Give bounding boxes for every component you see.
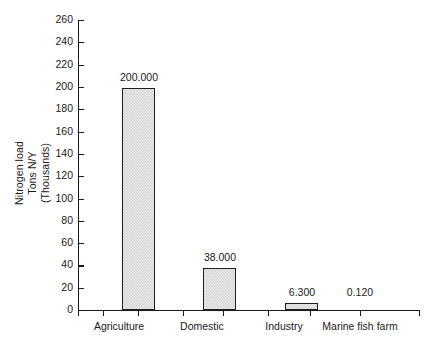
bar-value-agriculture: 200.000 (104, 71, 174, 84)
bar-value-marine-fish-farm: 0.120 (325, 286, 395, 299)
x-tick-boundary-3 (310, 310, 311, 316)
y-tick-label-160: 160 (39, 125, 73, 138)
y-tick-label-60: 60 (39, 236, 73, 249)
y-tick-140: 140 (78, 154, 84, 155)
y-axis-title-line-1: Nitrogen load (13, 141, 26, 205)
y-tick-40: 40 (78, 265, 84, 266)
x-tick-boundary-2 (223, 310, 224, 316)
y-tick-label-80: 80 (39, 214, 73, 227)
y-tick-label-260: 260 (39, 13, 73, 26)
bar-domestic (203, 268, 236, 310)
y-tick-160: 160 (78, 132, 84, 133)
y-tick-100: 100 (78, 199, 84, 200)
x-tick-boundary-4 (419, 310, 420, 316)
y-tick-180: 180 (78, 109, 84, 110)
plot-area: 0 20 40 60 80 100 120 140 160 180 200 (78, 20, 420, 310)
y-tick-200: 200 (78, 87, 84, 88)
y-tick-80: 80 (78, 221, 84, 222)
y-tick-240: 240 (78, 42, 84, 43)
y-tick-label-200: 200 (39, 80, 73, 93)
y-tick-label-20: 20 (39, 281, 73, 294)
y-tick-label-220: 220 (39, 58, 73, 71)
x-tick-center-domestic (183, 310, 184, 316)
y-tick-label-40: 40 (39, 258, 73, 271)
y-tick-220: 220 (78, 65, 84, 66)
y-tick-60: 60 (78, 243, 84, 244)
x-category-label-marine-fish-farm: Marine fish farm (305, 320, 415, 333)
x-tick-boundary-0 (78, 310, 79, 316)
y-tick-120: 120 (78, 176, 84, 177)
y-tick-label-120: 120 (39, 169, 73, 182)
x-tick-center-agriculture (103, 310, 104, 316)
x-tick-center-marine-fish-farm (360, 310, 361, 316)
x-axis-line (78, 310, 420, 311)
bar-agriculture (122, 88, 155, 310)
y-tick-label-0: 0 (39, 303, 73, 316)
bar-industry (285, 303, 318, 310)
y-tick-label-100: 100 (39, 192, 73, 205)
y-tick-260: 260 (78, 20, 84, 21)
bar-chart: Nitrogen load Tons N/Y (Thousands) 0 20 … (0, 0, 437, 349)
bar-value-domestic: 38.000 (185, 251, 255, 264)
y-axis-title-line-2: Tons N/Y (26, 151, 39, 194)
y-tick-label-140: 140 (39, 147, 73, 160)
y-tick-20: 20 (78, 288, 84, 289)
x-tick-center-industry (268, 310, 269, 316)
y-tick-label-180: 180 (39, 102, 73, 115)
y-tick-label-240: 240 (39, 35, 73, 48)
x-tick-boundary-1 (138, 310, 139, 316)
